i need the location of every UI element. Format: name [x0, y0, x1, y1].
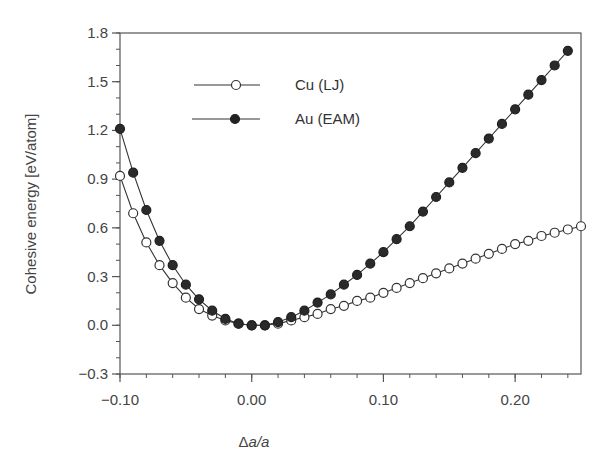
filled-circle-marker: [181, 280, 190, 289]
open-circle-marker: [497, 244, 506, 253]
open-circle-marker: [155, 261, 164, 270]
y-tick-label: 1.2: [87, 121, 108, 138]
filled-circle-marker: [550, 61, 559, 70]
open-circle-marker: [195, 305, 204, 314]
y-tick-label: 1.5: [87, 73, 108, 90]
filled-circle-marker: [274, 318, 283, 327]
filled-circle-icon: [231, 115, 240, 124]
filled-circle-marker: [458, 163, 467, 172]
filled-circle-marker: [405, 222, 414, 231]
legend-item-au: Au (EAM): [192, 110, 360, 127]
filled-circle-marker: [432, 193, 441, 202]
x-axis: −0.100.000.100.20: [101, 374, 568, 408]
y-axis: −0.30.00.30.60.91.21.51.8: [78, 24, 120, 382]
filled-circle-marker: [366, 259, 375, 268]
filled-circle-marker: [221, 314, 230, 323]
open-circle-marker: [181, 293, 190, 302]
y-tick-label: 0.6: [87, 219, 108, 236]
open-circle-marker: [418, 274, 427, 283]
open-circle-marker: [339, 301, 348, 310]
open-circle-marker: [471, 254, 480, 263]
open-circle-marker: [511, 240, 520, 249]
filled-circle-marker: [208, 306, 217, 315]
y-axis-title: Cohesive energy [eV/atom]: [22, 114, 39, 295]
y-tick-label: 0.0: [87, 316, 108, 333]
open-circle-icon: [232, 81, 241, 90]
open-circle-marker: [142, 238, 151, 247]
filled-circle-marker: [260, 321, 269, 330]
open-circle-marker: [168, 279, 177, 288]
x-tick-label: 0.10: [369, 391, 398, 408]
filled-circle-marker: [353, 270, 362, 279]
open-circle-marker: [577, 222, 586, 231]
filled-circle-marker: [247, 321, 256, 330]
y-tick-label: 0.3: [87, 268, 108, 285]
y-tick-label: 1.8: [87, 24, 108, 41]
filled-circle-marker: [392, 235, 401, 244]
legend-label-au: Au (EAM): [295, 110, 360, 127]
filled-circle-marker: [142, 205, 151, 214]
open-circle-marker: [313, 309, 322, 318]
legend: Cu (LJ) Au (EAM): [192, 76, 360, 127]
x-axis-title: Δa/a: [239, 433, 270, 450]
plot-area: [120, 33, 581, 374]
filled-circle-marker: [471, 149, 480, 158]
open-circle-marker: [524, 236, 533, 245]
open-circle-marker: [353, 296, 362, 305]
filled-circle-marker: [511, 105, 520, 114]
filled-circle-marker: [326, 290, 335, 299]
filled-circle-marker: [287, 313, 296, 322]
filled-circle-marker: [300, 306, 309, 315]
open-circle-marker: [563, 225, 572, 234]
open-circle-marker: [129, 209, 138, 218]
open-circle-marker: [484, 249, 493, 258]
open-circle-marker: [326, 305, 335, 314]
filled-circle-marker: [524, 90, 533, 99]
open-circle-marker: [458, 259, 467, 268]
filled-circle-marker: [537, 76, 546, 85]
filled-circle-marker: [116, 124, 125, 133]
series-cu-lj: [116, 171, 586, 329]
filled-circle-marker: [497, 119, 506, 128]
y-tick-label: −0.3: [78, 365, 108, 382]
open-circle-marker: [392, 283, 401, 292]
filled-circle-marker: [195, 295, 204, 304]
x-tick-label: 0.20: [501, 391, 530, 408]
open-circle-marker: [445, 264, 454, 273]
filled-circle-marker: [234, 319, 243, 328]
filled-circle-marker: [445, 178, 454, 187]
y-tick-label: 0.9: [87, 170, 108, 187]
filled-circle-marker: [563, 46, 572, 55]
x-tick-label: −0.10: [101, 391, 139, 408]
open-circle-marker: [366, 293, 375, 302]
filled-circle-marker: [379, 248, 388, 257]
filled-circle-marker: [155, 236, 164, 245]
legend-item-cu: Cu (LJ): [194, 76, 344, 93]
filled-circle-marker: [129, 168, 138, 177]
filled-circle-marker: [313, 298, 322, 307]
series-line: [120, 176, 581, 325]
open-circle-marker: [550, 228, 559, 237]
open-circle-marker: [537, 231, 546, 240]
open-circle-marker: [432, 269, 441, 278]
filled-circle-marker: [418, 207, 427, 216]
open-circle-marker: [405, 279, 414, 288]
cohesive-energy-chart: −0.100.000.100.20 −0.30.00.30.60.91.21.5…: [0, 0, 604, 473]
filled-circle-marker: [168, 261, 177, 270]
filled-circle-marker: [339, 280, 348, 289]
x-tick-label: 0.00: [237, 391, 266, 408]
data-series: [116, 46, 586, 329]
filled-circle-marker: [484, 134, 493, 143]
open-circle-marker: [116, 171, 125, 180]
legend-label-cu: Cu (LJ): [295, 76, 344, 93]
plot-frame: [120, 33, 581, 374]
open-circle-marker: [379, 288, 388, 297]
